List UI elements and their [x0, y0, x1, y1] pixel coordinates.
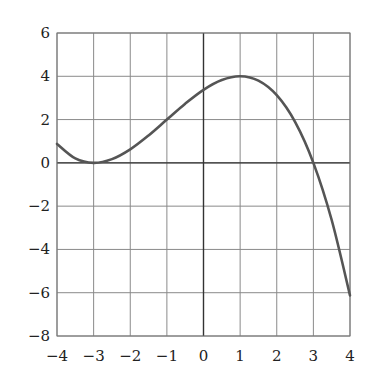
function-plot: −4−3−2−101234 6420−2−4−6−8 — [0, 0, 372, 378]
x-tick-labels: −4−3−2−101234 — [46, 347, 355, 365]
y-tick-label: −2 — [28, 197, 50, 215]
y-tick-label: 0 — [40, 154, 50, 172]
x-tick-label: 1 — [235, 347, 245, 365]
x-tick-label: −4 — [46, 347, 68, 365]
y-tick-label: 6 — [40, 24, 50, 42]
x-tick-label: 4 — [345, 347, 355, 365]
x-tick-label: 0 — [199, 347, 209, 365]
y-tick-label: 2 — [40, 111, 50, 129]
x-tick-label: −1 — [156, 347, 178, 365]
x-tick-label: −2 — [119, 347, 141, 365]
x-tick-label: 3 — [309, 347, 319, 365]
axes — [57, 33, 350, 336]
x-tick-label: −3 — [83, 347, 105, 365]
y-tick-label: −8 — [28, 327, 50, 345]
y-tick-label: −6 — [28, 284, 50, 302]
y-tick-label: 4 — [40, 67, 50, 85]
x-tick-label: 2 — [272, 347, 282, 365]
y-tick-label: −4 — [28, 240, 50, 258]
y-tick-labels: 6420−2−4−6−8 — [28, 24, 50, 345]
